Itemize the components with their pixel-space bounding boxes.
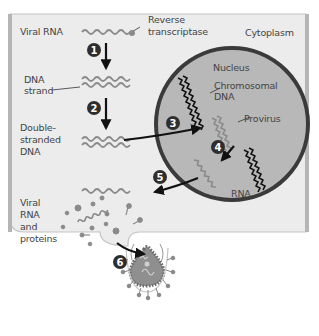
label-provirus: Provirus — [244, 113, 281, 124]
label-ds-dna-1: Double- — [20, 122, 56, 133]
label-reverse-transcriptase-2: transcriptase — [148, 26, 208, 37]
label-viral-rna-proteins-2: RNA — [20, 209, 40, 220]
label-viral-rna: Viral RNA — [20, 26, 63, 37]
label-viral-rna-proteins-3: and — [20, 221, 37, 232]
budding-virion — [120, 244, 175, 300]
label-ds-dna-2: stranded — [20, 134, 61, 145]
step-badge-2: 2 — [87, 101, 101, 115]
step-badge-6: 6 — [113, 255, 127, 269]
svg-text:1: 1 — [91, 45, 98, 56]
step-badge-3: 3 — [166, 116, 180, 130]
label-chromosomal-dna-1: Chromosomal — [214, 80, 278, 91]
retrovirus-replication-diagram: 1 2 3 4 5 6 Viral RNA Reverse transcript… — [0, 0, 319, 336]
label-viral-rna-proteins-4: proteins — [20, 233, 57, 244]
step-badge-1: 1 — [87, 43, 101, 57]
svg-text:3: 3 — [170, 118, 177, 129]
svg-text:4: 4 — [215, 142, 222, 153]
label-dna-strand-2: strand — [24, 85, 53, 96]
step-badge-5: 5 — [153, 170, 167, 184]
label-cytoplasm: Cytoplasm — [245, 27, 294, 38]
reverse-transcriptase-icon — [129, 30, 135, 36]
svg-text:6: 6 — [117, 257, 124, 268]
step-badge-4: 4 — [211, 140, 225, 154]
label-nucleus: Nucleus — [213, 62, 249, 73]
svg-text:2: 2 — [91, 103, 98, 114]
svg-text:5: 5 — [157, 172, 164, 183]
diagram-canvas: 1 2 3 4 5 6 — [0, 0, 319, 336]
label-viral-rna-proteins-1: Viral — [20, 197, 40, 208]
label-dna-strand-1: DNA — [24, 74, 44, 85]
label-chromosomal-dna-2: DNA — [214, 91, 234, 102]
label-reverse-transcriptase-1: Reverse — [148, 14, 185, 25]
label-ds-dna-3: DNA — [20, 146, 40, 157]
label-rna: RNA — [231, 188, 251, 199]
